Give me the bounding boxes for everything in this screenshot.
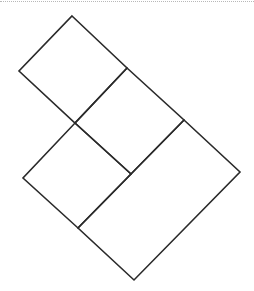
diagram-canvas xyxy=(0,0,254,291)
rectangle-large xyxy=(78,120,240,280)
square-middle xyxy=(75,68,184,174)
square-lower-left xyxy=(23,123,131,228)
square-top xyxy=(19,16,127,123)
